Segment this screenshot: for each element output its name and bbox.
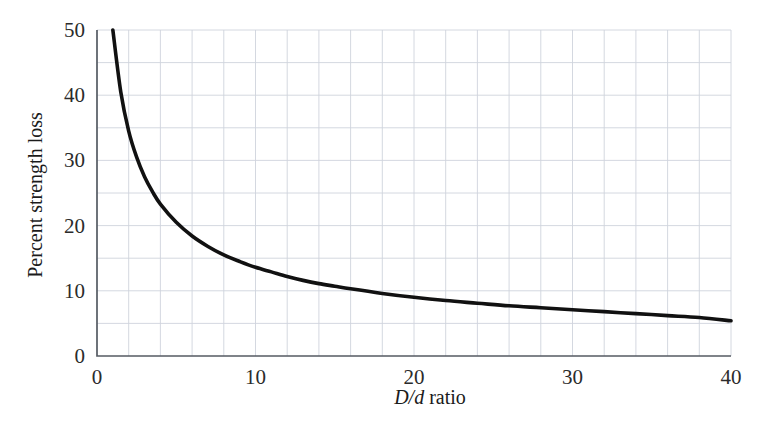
x-tick-label: 30 — [562, 365, 583, 389]
grid-lines-minor — [97, 30, 731, 356]
y-axis-title: Percent strength loss — [24, 112, 47, 278]
x-axis-title: D/d ratio — [393, 386, 466, 408]
y-tick-label: 0 — [75, 344, 86, 368]
x-tick-label: 0 — [92, 365, 103, 389]
y-tick-label: 20 — [64, 214, 85, 238]
y-axis-tick-labels: 01020304050 — [64, 18, 85, 368]
y-tick-label: 10 — [64, 279, 85, 303]
x-tick-label: 10 — [245, 365, 266, 389]
series-line-percent-strength-loss — [113, 30, 731, 321]
chart-canvas: 010203040 01020304050 D/d ratio Percent … — [0, 0, 771, 422]
data-series-curve — [113, 30, 731, 321]
y-tick-label: 30 — [64, 148, 85, 172]
axis-titles: D/d ratio Percent strength loss — [24, 112, 466, 408]
x-tick-label: 40 — [721, 365, 742, 389]
y-tick-label: 40 — [64, 83, 85, 107]
chart-figure: 010203040 01020304050 D/d ratio Percent … — [0, 0, 771, 422]
y-tick-label: 50 — [64, 18, 85, 42]
